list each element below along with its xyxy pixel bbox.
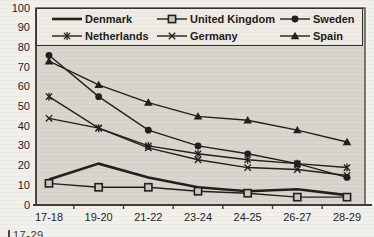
- legend: DenmarkUnited KingdomSwedenNetherlandsGe…: [36, 8, 363, 46]
- legend-swatch-triangle-filled-icon: [280, 31, 310, 41]
- legend-item-united-kingdom: United Kingdom: [157, 12, 275, 26]
- x-tick-label-23-24: 23-24: [176, 211, 220, 223]
- legend-swatch-square-open-icon: [157, 14, 187, 24]
- y-tick-label-40: 40: [2, 121, 30, 132]
- y-tick-label-90: 90: [2, 22, 30, 33]
- marker-square-open: [294, 194, 301, 201]
- cutoff-caption: 17-29: [13, 229, 44, 237]
- marker-square-open: [244, 190, 251, 197]
- legend-label: Spain: [313, 30, 343, 42]
- legend-label: Sweden: [313, 13, 355, 25]
- x-tick-label-28-29: 28-29: [325, 211, 369, 223]
- y-tick-label-30: 30: [2, 140, 30, 151]
- marker-square-open: [45, 180, 52, 187]
- x-tick-label-19-20: 19-20: [77, 211, 121, 223]
- marker-circle-filled: [95, 93, 102, 100]
- x-tick-label-26-27: 26-27: [275, 211, 319, 223]
- legend-label: Netherlands: [85, 30, 149, 42]
- marker-square-open: [95, 184, 102, 191]
- marker-circle-filled: [195, 143, 202, 150]
- line-chart: 0102030405060708090100 17-1819-2021-2223…: [0, 0, 374, 237]
- legend-item-germany: Germany: [157, 29, 238, 43]
- legend-label: United Kingdom: [190, 13, 275, 25]
- caption-tick-mark: [8, 230, 10, 237]
- x-tick-label-24-25: 24-25: [226, 211, 270, 223]
- y-tick-label-60: 60: [2, 81, 30, 92]
- legend-swatch-x-icon: [157, 31, 187, 41]
- y-tick-label-100: 100: [2, 3, 30, 14]
- legend-item-spain: Spain: [280, 29, 343, 43]
- y-tick-label-50: 50: [2, 101, 30, 112]
- legend-swatch-circle-filled-icon: [280, 14, 310, 24]
- legend-item-denmark: Denmark: [52, 12, 132, 26]
- marker-circle-filled: [145, 127, 152, 134]
- x-tick-label-17-18: 17-18: [27, 211, 71, 223]
- x-tick-label-21-22: 21-22: [126, 211, 170, 223]
- y-tick-label-10: 10: [2, 180, 30, 191]
- y-tick-label-20: 20: [2, 160, 30, 171]
- y-tick-label-70: 70: [2, 62, 30, 73]
- marker-square-open: [343, 194, 350, 201]
- y-tick-label-0: 0: [2, 200, 30, 211]
- legend-item-sweden: Sweden: [280, 12, 355, 26]
- marker-square-open: [168, 15, 175, 22]
- legend-item-netherlands: Netherlands: [52, 29, 149, 43]
- marker-square-open: [145, 184, 152, 191]
- legend-label: Germany: [190, 30, 238, 42]
- marker-square-open: [194, 188, 201, 195]
- legend-swatch-none-icon: [52, 14, 82, 24]
- legend-label: Denmark: [85, 13, 132, 25]
- legend-swatch-asterisk-icon: [52, 31, 82, 41]
- y-tick-label-80: 80: [2, 42, 30, 53]
- marker-circle-filled: [292, 16, 299, 23]
